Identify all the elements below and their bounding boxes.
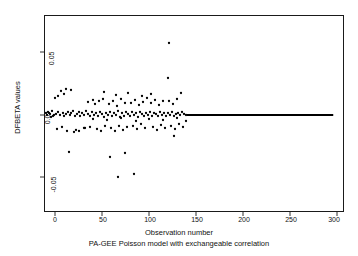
data-point: [150, 93, 152, 95]
data-point: [107, 114, 109, 116]
data-point: [47, 111, 49, 113]
data-point: [158, 104, 160, 106]
ytick-label-0: 0.05: [48, 52, 55, 66]
data-point: [168, 100, 170, 102]
ytick-label-2: -0.05: [50, 177, 57, 193]
data-point: [149, 111, 151, 113]
data-point: [124, 152, 126, 154]
data-point: [89, 126, 91, 128]
data-point: [68, 151, 70, 153]
data-point: [136, 128, 138, 130]
data-point: [78, 130, 80, 132]
data-point: [134, 99, 136, 101]
data-point: [178, 123, 180, 125]
data-point: [55, 113, 57, 115]
data-point: [111, 115, 113, 117]
data-point: [56, 128, 58, 130]
data-point: [72, 110, 74, 112]
data-point: [121, 112, 123, 114]
data-point: [130, 102, 132, 104]
data-point: [120, 117, 122, 119]
data-point: [70, 112, 72, 114]
data-point: [162, 119, 164, 121]
data-point: [63, 93, 65, 95]
data-point: [117, 176, 119, 178]
data-point: [162, 100, 164, 102]
data-point: [151, 115, 153, 117]
data-point: [69, 114, 71, 116]
data-point: [81, 112, 83, 114]
data-point: [63, 115, 65, 117]
data-point: [78, 111, 80, 113]
xtick-label-2: 100: [135, 216, 165, 223]
scatter-points-group: [45, 42, 187, 178]
data-point: [113, 112, 115, 114]
data-point: [173, 135, 175, 137]
data-point: [161, 114, 163, 116]
data-point: [137, 116, 139, 118]
data-point: [173, 115, 175, 117]
data-point: [167, 112, 169, 114]
data-point: [122, 129, 124, 131]
data-point: [183, 113, 185, 115]
data-point: [104, 125, 106, 127]
data-point: [167, 77, 169, 79]
data-point: [57, 95, 59, 97]
data-point: [109, 156, 111, 158]
data-point: [124, 102, 126, 104]
data-point: [171, 111, 173, 113]
xtick-label-6: 300: [319, 216, 349, 223]
data-point: [66, 130, 68, 132]
data-point: [115, 114, 117, 116]
data-point: [135, 120, 137, 122]
data-point: [168, 42, 170, 44]
data-point: [144, 127, 146, 129]
data-point: [157, 115, 159, 117]
data-point: [185, 120, 187, 122]
data-point: [141, 113, 143, 115]
data-point: [103, 116, 105, 118]
data-point: [159, 111, 161, 113]
data-point: [126, 126, 128, 128]
data-point: [148, 118, 150, 120]
data-point: [85, 110, 87, 112]
data-point: [131, 111, 133, 113]
data-point: [95, 112, 97, 114]
data-point: [116, 105, 118, 107]
data-point: [165, 115, 167, 117]
data-point: [89, 115, 91, 117]
chart-subtitle: PA-GEE Poisson model with exchangeable c…: [0, 239, 358, 248]
data-point: [164, 127, 166, 129]
data-point: [100, 130, 102, 132]
data-point: [70, 89, 72, 91]
data-point: [54, 97, 56, 99]
data-point: [99, 111, 101, 113]
data-point: [160, 124, 162, 126]
ytick-label-1: 0.0: [44, 115, 51, 125]
data-point: [174, 128, 176, 130]
data-point: [114, 130, 116, 132]
data-point: [180, 92, 182, 94]
data-point: [93, 114, 95, 116]
data-point: [143, 115, 145, 117]
data-point: [74, 115, 76, 117]
data-point: [133, 114, 135, 116]
data-point: [83, 114, 85, 116]
data-point: [109, 111, 111, 113]
data-point: [87, 101, 89, 103]
data-point: [163, 112, 165, 114]
data-point: [79, 115, 81, 117]
data-point: [76, 113, 78, 115]
data-point: [112, 100, 114, 102]
data-point: [97, 115, 99, 117]
data-point: [133, 173, 135, 175]
data-point: [142, 101, 144, 103]
data-point: [101, 113, 103, 115]
data-point: [175, 113, 177, 115]
data-point: [91, 111, 93, 113]
data-point: [62, 112, 64, 114]
data-point: [108, 103, 110, 105]
data-point: [181, 111, 183, 113]
data-point: [106, 119, 108, 121]
xtick-label-1: 50: [88, 216, 118, 223]
